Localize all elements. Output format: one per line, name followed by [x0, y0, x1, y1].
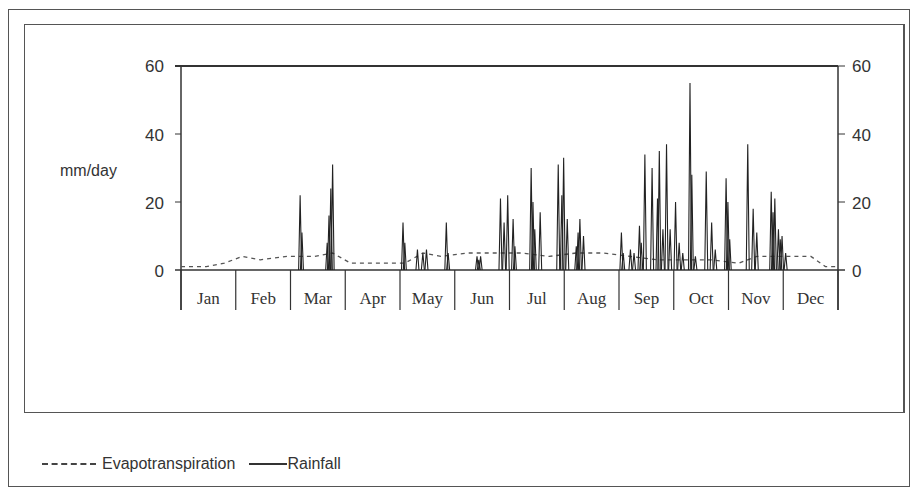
- month-label-nov: Nov: [741, 289, 771, 308]
- month-label-jul: Jul: [527, 289, 547, 308]
- right-tick-40: 40: [852, 126, 871, 145]
- legend-label-rainfall: Rainfall: [287, 455, 340, 473]
- month-label-dec: Dec: [797, 289, 825, 308]
- right-tick-60: 60: [852, 57, 871, 76]
- left-tick-20: 20: [145, 194, 164, 213]
- series-layer: [181, 83, 838, 270]
- legend-label-evapotranspiration: Evapotranspiration: [102, 455, 235, 473]
- right-tick-20: 20: [852, 194, 871, 213]
- left-tick-60: 60: [145, 57, 164, 76]
- month-label-oct: Oct: [689, 289, 714, 308]
- left-tick-0: 0: [155, 262, 164, 281]
- month-label-feb: Feb: [250, 289, 276, 308]
- month-label-mar: Mar: [304, 289, 333, 308]
- month-label-jan: Jan: [197, 289, 220, 308]
- legend: Evapotranspiration Rainfall: [42, 455, 341, 473]
- legend-solid-line-icon: [249, 463, 287, 465]
- legend-dashed-line-icon: [42, 463, 96, 465]
- right-tick-0: 0: [852, 262, 861, 281]
- month-label-sep: Sep: [634, 289, 660, 308]
- month-dividers: [181, 270, 838, 310]
- month-labels: JanFebMarAprMayJunJulAugSepOctNovDec: [197, 289, 825, 308]
- month-label-aug: Aug: [577, 289, 607, 308]
- y-axis-label: mm/day: [60, 162, 117, 179]
- month-label-jun: Jun: [470, 289, 494, 308]
- left-tick-40: 40: [145, 126, 164, 145]
- month-label-may: May: [412, 289, 444, 308]
- month-label-apr: Apr: [359, 289, 386, 308]
- chart-svg: mm/day 60 40 20 0 60 40 20 0 JanFebMarAp…: [0, 0, 920, 493]
- rainfall-line: [299, 83, 788, 270]
